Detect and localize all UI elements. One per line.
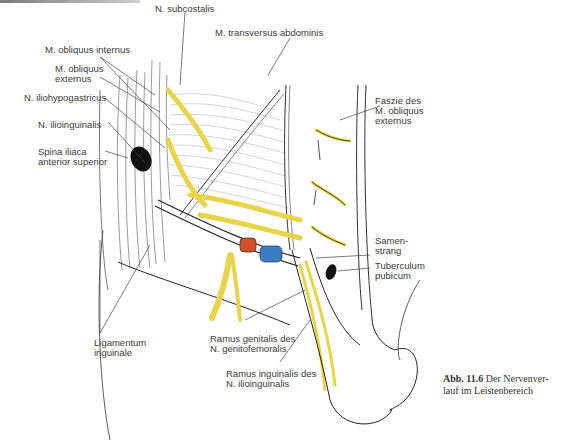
label-m-obliquus-internus: M. obliquus internus — [45, 45, 130, 56]
figure-caption: Abb. 11.6 Der Nervenver- lauf im Leisten… — [443, 373, 561, 397]
label-n-ilioinguinalis: N. ilioinguinalis — [38, 120, 101, 131]
vein-icon — [260, 246, 282, 262]
label-spina-iliaca-2: anterior superior — [38, 157, 107, 168]
artery-icon — [240, 238, 256, 252]
label-tuberculum-2: pubicum — [375, 271, 411, 282]
muscle-layers — [99, 60, 170, 290]
figure-number: Abb. 11.6 — [443, 373, 483, 384]
tuberculum-marker — [324, 263, 339, 281]
label-samenstrang-2: strang — [375, 246, 401, 257]
label-ligamentum-2: inguinale — [94, 348, 132, 359]
caption-line1: Der Nervenver- — [486, 373, 549, 384]
caption-line2: lauf im Leistenbereich — [443, 385, 533, 396]
label-n-subcostalis: N. subcostalis — [155, 4, 214, 15]
label-m-transversus-abdominis: M. transversus abdominis — [215, 28, 323, 39]
label-n-iliohypogastricus: N. iliohypogastricus — [24, 93, 106, 104]
label-ramus-inguinalis-2: N. ilioinguinalis — [226, 379, 289, 390]
label-m-obliquus-externus-2: externus — [55, 74, 91, 85]
label-faszie-3: externus — [375, 116, 411, 127]
label-ramus-genitalis-2: N. genitofemoralis — [210, 344, 287, 355]
